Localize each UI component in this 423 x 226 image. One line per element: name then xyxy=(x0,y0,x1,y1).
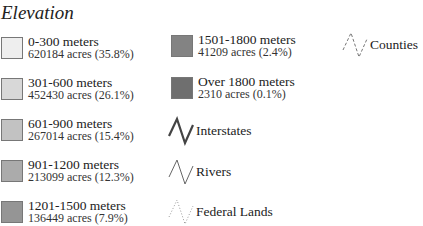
county-line-icon xyxy=(342,30,368,60)
legend-item-interstates: Interstates xyxy=(168,116,251,146)
elevation-swatch xyxy=(171,35,193,57)
legend-item-elevation-901-1200: 901-1200 meters 213099 acres (12.3%) xyxy=(1,158,134,184)
legend-item-elevation-1201-1500: 1201-1500 meters 136449 acres (7.9%) xyxy=(1,199,128,225)
legend-item-rivers: Rivers xyxy=(168,157,231,187)
legend-item-counties: Counties xyxy=(342,30,418,60)
legend-item-elevation-1501-1800: 1501-1800 meters 41209 acres (2.4%) xyxy=(171,33,296,59)
interstate-line-icon xyxy=(168,116,194,146)
legend-label: Interstates xyxy=(196,123,251,139)
federal-lands-line-icon xyxy=(168,197,194,226)
legend-detail: 213099 acres (12.3%) xyxy=(28,171,134,184)
legend-item-elevation-over-1800: Over 1800 meters 2310 acres (0.1%) xyxy=(171,75,295,101)
legend-item-federal-lands: Federal Lands xyxy=(168,197,273,226)
elevation-swatch xyxy=(1,37,23,59)
elevation-swatch xyxy=(171,77,193,99)
legend-title: Elevation xyxy=(1,2,74,24)
legend-item-elevation-601-900: 601-900 meters 267014 acres (15.4%) xyxy=(1,117,134,143)
legend-detail: 620184 acres (35.8%) xyxy=(28,48,134,61)
legend-item-elevation-0-300: 0-300 meters 620184 acres (35.8%) xyxy=(1,35,134,61)
elevation-swatch xyxy=(1,78,23,100)
legend-item-elevation-301-600: 301-600 meters 452430 acres (26.1%) xyxy=(1,76,134,102)
river-line-icon xyxy=(168,157,194,187)
legend-label: Counties xyxy=(370,37,418,53)
elevation-swatch xyxy=(1,119,23,141)
legend-detail: 2310 acres (0.1%) xyxy=(198,88,295,101)
legend-label: Rivers xyxy=(196,164,231,180)
legend-detail: 41209 acres (2.4%) xyxy=(198,46,296,59)
legend-detail: 136449 acres (7.9%) xyxy=(28,212,128,225)
legend-detail: 452430 acres (26.1%) xyxy=(28,89,134,102)
elevation-swatch xyxy=(1,160,23,182)
elevation-swatch xyxy=(1,201,23,223)
legend-label: Federal Lands xyxy=(196,204,273,220)
legend-detail: 267014 acres (15.4%) xyxy=(28,130,134,143)
